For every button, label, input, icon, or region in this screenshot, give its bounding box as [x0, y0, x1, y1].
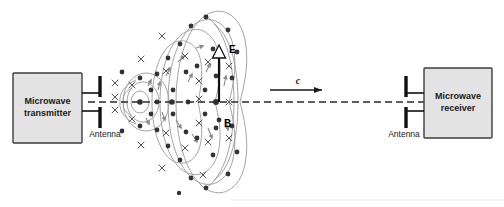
- wave-arrow: [208, 128, 212, 138]
- field-dot: [214, 126, 219, 131]
- field-dot: [166, 144, 171, 149]
- field-dot: [203, 88, 208, 93]
- field-dot: [177, 191, 181, 195]
- field-dot: [226, 28, 231, 33]
- field-dot: [189, 176, 194, 181]
- field-dot: [171, 112, 176, 117]
- field-dot: [138, 124, 143, 129]
- microwave-receiver-box[interactable]: Microwave receiver: [424, 68, 492, 138]
- field-dot: [204, 15, 209, 20]
- field-dot: [230, 76, 235, 81]
- field-dot: [217, 118, 222, 123]
- wave-arrow: [206, 64, 210, 72]
- c-speed-label: c: [296, 75, 301, 86]
- field-dot: [189, 24, 194, 29]
- b-field-label: B: [224, 118, 231, 129]
- field-dot: [204, 186, 209, 191]
- field-dot: [149, 112, 154, 117]
- receiver-antenna-label: Antenna: [388, 129, 420, 139]
- field-cross: [138, 142, 144, 148]
- field-cross: [159, 33, 165, 39]
- transmitter-label-line2: transmitter: [24, 108, 72, 118]
- field-dot: [235, 150, 240, 155]
- receiver-antenna[interactable]: Antenna: [388, 76, 424, 139]
- transmitter-label-line1: Microwave: [24, 96, 70, 106]
- field-cross: [163, 130, 169, 136]
- field-dot: [211, 153, 216, 158]
- field-dot: [184, 70, 189, 75]
- field-dot: [171, 88, 176, 93]
- field-dot: [211, 47, 216, 52]
- field-dot: [138, 76, 143, 81]
- microwave-transmitter-box[interactable]: Microwave transmitter: [13, 73, 82, 143]
- diagram-canvas: Microwave transmitter Antenna Microwave …: [0, 0, 504, 207]
- field-cross: [138, 56, 144, 62]
- field-cross: [159, 165, 165, 171]
- field-cross: [205, 59, 211, 65]
- field-dot: [166, 56, 171, 61]
- field-dot: [214, 74, 219, 79]
- wave-arrow: [158, 82, 160, 90]
- wave-arrow: [224, 76, 226, 86]
- field-cross: [112, 107, 118, 113]
- field-cross: [205, 139, 211, 145]
- receiver-label-line2: receiver: [441, 103, 476, 113]
- wave-arrow: [188, 74, 192, 82]
- field-dot: [184, 130, 189, 135]
- field-cross: [182, 53, 188, 59]
- field-dot: [120, 70, 125, 75]
- field-dot: [195, 136, 200, 141]
- field-cross: [182, 145, 188, 151]
- field-dot: [195, 64, 200, 69]
- wave-arrow: [162, 112, 165, 120]
- field-cross: [112, 80, 118, 86]
- field-dot: [178, 158, 183, 163]
- field-cross: [112, 94, 118, 100]
- e-vector-arrowhead-icon: [213, 45, 226, 58]
- field-dot: [155, 72, 160, 77]
- field-dot: [178, 42, 183, 47]
- receiver-label-line1: Microwave: [435, 91, 481, 101]
- transmitter-antenna[interactable]: Antenna: [82, 76, 121, 139]
- wave-arrow: [196, 46, 203, 48]
- field-dot: [155, 128, 160, 133]
- field-dot: [149, 88, 154, 93]
- propagation-speed-indicator: c: [270, 75, 322, 90]
- e-vector-label: E: [229, 44, 236, 55]
- field-dot: [203, 112, 208, 117]
- transmitter-antenna-label: Antenna: [89, 129, 121, 139]
- field-dot: [226, 172, 231, 177]
